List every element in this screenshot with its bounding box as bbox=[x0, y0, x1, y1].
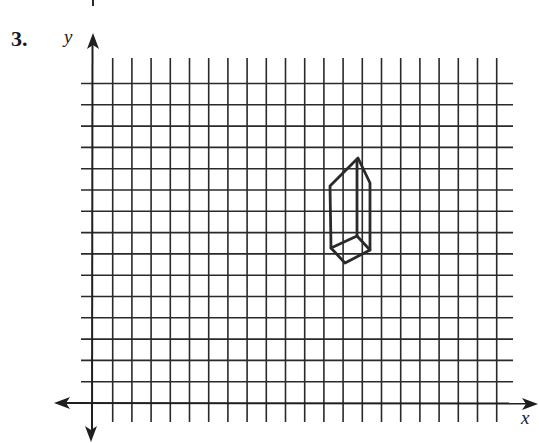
problem-number: 3. bbox=[11, 26, 28, 52]
y-axis-down-arrow-icon bbox=[85, 426, 97, 442]
y-axis-label: y bbox=[64, 26, 72, 48]
x-axis bbox=[54, 397, 538, 410]
x-axis-label: x bbox=[521, 407, 529, 429]
prism-bottom-face bbox=[331, 236, 370, 250]
coordinate-grid-figure: 3. y x bbox=[0, 0, 539, 443]
grid-canvas bbox=[0, 0, 539, 443]
grid-lines bbox=[81, 58, 513, 422]
y-axis bbox=[85, 33, 99, 442]
